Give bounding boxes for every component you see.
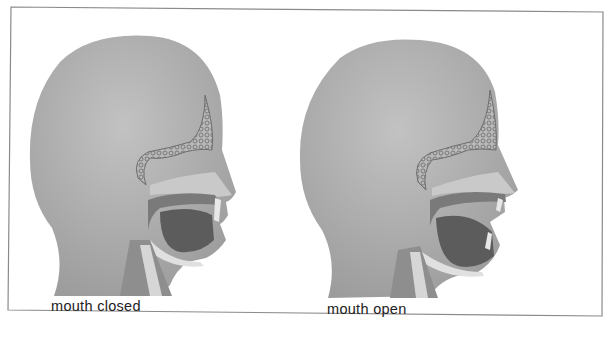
head-mouth-open [300, 39, 518, 298]
caption-mouth-open: mouth open [327, 301, 407, 317]
diagram-canvas [0, 0, 613, 344]
caption-mouth-closed: mouth closed [51, 298, 141, 314]
head-mouth-closed [30, 36, 236, 296]
